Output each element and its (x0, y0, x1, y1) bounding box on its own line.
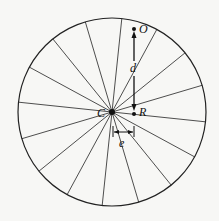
label-o: O (139, 23, 148, 35)
spoke (85, 22, 112, 112)
point-o (132, 27, 136, 31)
spoke (67, 112, 112, 195)
arrowhead-up-icon (132, 31, 137, 38)
label-c: C (97, 107, 105, 119)
spoke (112, 112, 195, 157)
arrowhead-right-icon (128, 130, 133, 134)
spoke (53, 39, 112, 112)
label-d: d (130, 62, 136, 74)
point-r (132, 112, 136, 116)
spoke (112, 19, 122, 112)
spoke (112, 53, 185, 112)
label-r: R (139, 106, 146, 118)
point-c (109, 109, 115, 115)
spoke (112, 112, 205, 122)
arrowhead-left-icon (114, 130, 119, 134)
spoke (102, 112, 112, 205)
spoke (39, 112, 112, 171)
wheel-diagram: C O R d e (0, 0, 219, 221)
spoke (112, 112, 139, 202)
wheel-figure (0, 0, 219, 221)
label-e: e (119, 137, 124, 149)
spoke (112, 85, 202, 112)
arrowhead-down-icon (132, 104, 137, 111)
